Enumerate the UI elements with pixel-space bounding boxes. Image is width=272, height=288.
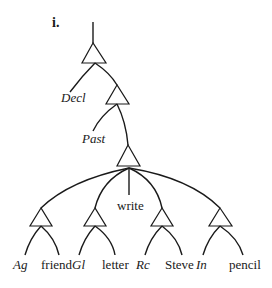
label-decl: Decl bbox=[60, 90, 86, 105]
figure-label: i. bbox=[52, 15, 59, 30]
edge-gl-noun bbox=[95, 226, 115, 255]
node-triangle-rc bbox=[151, 208, 173, 226]
edge-rc-noun bbox=[162, 226, 182, 255]
edge-ag-case bbox=[25, 226, 41, 255]
tree-diagram: i. Decl Past write Ag friend Gl letter R… bbox=[0, 0, 272, 288]
edge-t1-t2 bbox=[95, 63, 117, 85]
edge-gl-case bbox=[79, 226, 95, 255]
node-triangle-in bbox=[209, 208, 232, 226]
label-case-rc: Rc bbox=[135, 257, 150, 272]
edge-in-case bbox=[203, 226, 220, 255]
label-past: Past bbox=[81, 131, 106, 146]
node-triangle-1 bbox=[82, 43, 106, 63]
label-case-gl: Gl bbox=[72, 257, 85, 272]
label-noun-friend: friend bbox=[41, 257, 73, 272]
node-triangle-3 bbox=[117, 145, 140, 166]
node-triangle-ag bbox=[30, 208, 52, 226]
label-noun-letter: letter bbox=[102, 257, 129, 272]
label-case-in: In bbox=[195, 257, 207, 272]
edge-in-noun bbox=[220, 226, 243, 255]
node-triangle-gl bbox=[84, 208, 106, 226]
edge-past bbox=[93, 104, 117, 131]
label-noun-steve: Steve bbox=[165, 257, 194, 272]
edge-rc-case bbox=[145, 226, 162, 255]
label-verb: write bbox=[117, 198, 144, 213]
edge-decl bbox=[70, 63, 95, 92]
node-triangle-2 bbox=[106, 85, 129, 104]
label-case-ag: Ag bbox=[12, 257, 28, 272]
edge-ag bbox=[41, 168, 129, 208]
edge-t2-t3 bbox=[117, 104, 128, 145]
edge-ag-noun bbox=[41, 226, 59, 255]
label-noun-pencil: pencil bbox=[229, 257, 261, 272]
